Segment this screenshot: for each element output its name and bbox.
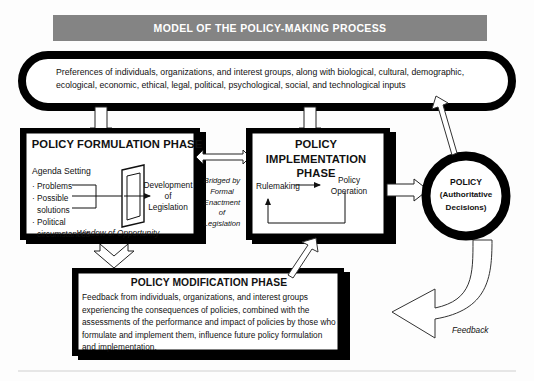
formulation-phase-title: POLICY FORMULATION PHASE <box>28 137 206 151</box>
bridge-line-3: Enactment <box>196 198 248 209</box>
bridge-line-5: Legislation <box>196 219 248 230</box>
policy-operation-label: Policy Operation <box>325 175 373 197</box>
bullet-possible-cont: solutions <box>32 204 102 216</box>
implementation-title-line-1: POLICY IMPLEMENTATION <box>250 137 382 166</box>
formulation-to-modification-arrow <box>94 244 134 268</box>
diagram-canvas: MODEL OF THE POLICY-MAKING PROCESS Prefe… <box>0 0 534 381</box>
bullet-problems: · Problems <box>32 180 102 192</box>
rulemaking-label: Rulemaking <box>256 181 300 191</box>
bridge-line-2: Formal <box>196 187 248 198</box>
devleg-line-1: Development <box>138 180 198 191</box>
policy-circle-label: POLICY (Authoritative Decisions) <box>424 176 508 214</box>
modification-phase-body: Feedback from individuals, organizations… <box>82 291 338 354</box>
modification-phase-title: POLICY MODIFICATION PHASE <box>78 277 340 290</box>
preferences-oval-text: Preferences of individuals, organization… <box>56 66 486 92</box>
policy-operation-line-1: Policy <box>325 175 373 186</box>
devleg-line-2: of <box>138 191 198 202</box>
agenda-setting-heading: Agenda Setting <box>32 166 91 177</box>
window-of-opportunity-label: Window of Opportunity <box>48 229 188 239</box>
diagram-title-text: MODEL OF THE POLICY-MAKING PROCESS <box>154 22 387 34</box>
bridge-label: Bridged by Formal Enactment of Legislati… <box>196 176 248 230</box>
development-of-legislation-label: Development of Legislation <box>138 180 198 214</box>
policy-circle-sub-2: Decisions) <box>424 202 508 215</box>
bridge-line-4: of <box>196 208 248 219</box>
feedback-arrow <box>392 240 492 338</box>
bullet-possible: · Possible <box>32 192 102 204</box>
bridge-line-1: Bridged by <box>196 176 248 187</box>
devleg-line-3: Legislation <box>138 202 198 213</box>
policy-circle-title: POLICY <box>424 176 508 189</box>
feedback-label: Feedback <box>452 325 488 335</box>
diagram-title-banner: MODEL OF THE POLICY-MAKING PROCESS <box>53 15 487 41</box>
policy-circle-sub-1: (Authoritative <box>424 189 508 202</box>
bullet-political: · Political <box>32 216 102 228</box>
policy-operation-line-2: Operation <box>325 186 373 197</box>
